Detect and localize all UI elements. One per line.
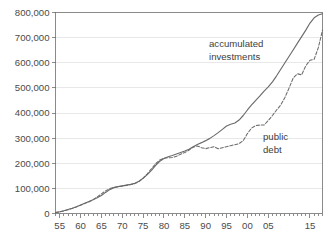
- y-axis-tick-label: 700,000: [15, 32, 50, 43]
- x-axis-tick-label: 55: [54, 220, 65, 231]
- public-debt-label: debt: [263, 144, 282, 155]
- x-axis-tick-label: 90: [200, 220, 211, 231]
- x-axis-ticks-group: [56, 214, 323, 219]
- line-chart-svg: 0100,000200,000300,000400,000500,000600,…: [0, 0, 334, 240]
- x-axis-tick-label: 60: [75, 220, 86, 231]
- accumulated-investments-label: accumulated: [209, 38, 263, 49]
- y-axis-tick-label: 800,000: [15, 7, 50, 18]
- x-axis-tick-label: 95: [221, 220, 232, 231]
- y-axis-tick-label: 600,000: [15, 57, 50, 68]
- gridlines-group: [56, 13, 323, 189]
- y-axis-tick-label: 300,000: [15, 133, 50, 144]
- x-axis-tick-label: 15: [305, 220, 316, 231]
- y-axis-tick-label: 200,000: [15, 158, 50, 169]
- x-axis-tick-label: 75: [138, 220, 149, 231]
- y-axis-tick-label: 400,000: [15, 107, 50, 118]
- y-axis-tick-label: 0: [44, 208, 49, 219]
- x-axis-tick-label: 00: [242, 220, 253, 231]
- series-annotations-group: accumulatedinvestmentspublicdebt: [209, 38, 288, 155]
- y-axis-labels-group: 0100,000200,000300,000400,000500,000600,…: [15, 7, 50, 219]
- y-axis-tick-label: 500,000: [15, 82, 50, 93]
- y-axis-ticks-group: [52, 13, 56, 214]
- series-line-public-debt: [56, 30, 323, 212]
- x-axis-tick-label: 65: [96, 220, 107, 231]
- x-axis-tick-label: 05: [263, 220, 274, 231]
- x-axis-tick-label: 70: [117, 220, 128, 231]
- y-axis-tick-label: 100,000: [15, 183, 50, 194]
- x-axis-tick-label: 85: [179, 220, 190, 231]
- accumulated-investments-label: investments: [209, 51, 260, 62]
- x-axis-labels-group: 556065707580859095000515: [54, 220, 315, 231]
- public-debt-label: public: [263, 131, 288, 142]
- x-axis-tick-label: 80: [159, 220, 170, 231]
- chart-figure: 0100,000200,000300,000400,000500,000600,…: [0, 0, 334, 240]
